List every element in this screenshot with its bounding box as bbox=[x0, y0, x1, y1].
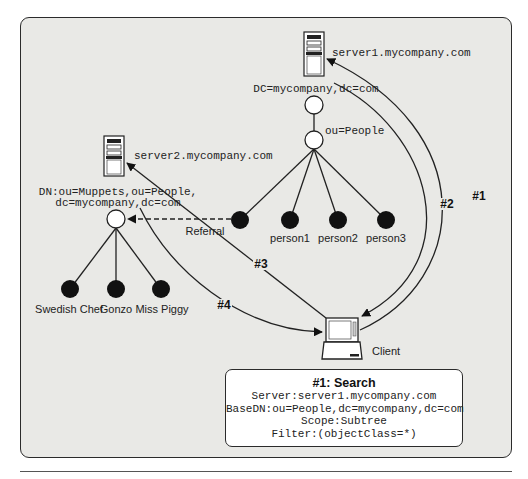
server1-dn-label: DC=mycompany,dc=com bbox=[253, 83, 379, 95]
search-filter: Filter:(objectClass=*) bbox=[226, 428, 462, 441]
swedish-chef-node bbox=[61, 280, 79, 298]
person3-label: person3 bbox=[366, 232, 406, 244]
step1-arrow bbox=[327, 59, 442, 330]
person2-node bbox=[329, 211, 347, 229]
step2-arrow bbox=[334, 83, 427, 316]
ou-people-node bbox=[305, 131, 323, 149]
search-server: Server:server1.mycompany.com bbox=[226, 390, 462, 403]
search-request-box: #1: Search Server:server1.mycompany.com … bbox=[225, 369, 463, 447]
step1-label: #1 bbox=[472, 189, 486, 203]
step4-label: #4 bbox=[217, 298, 231, 312]
caption-divider bbox=[20, 471, 512, 472]
server1-icon bbox=[304, 32, 324, 76]
person2-label: person2 bbox=[318, 232, 358, 244]
client-label: Client bbox=[372, 345, 400, 357]
server2-icon bbox=[104, 136, 124, 176]
step3-label: #3 bbox=[254, 257, 268, 271]
person3-node bbox=[377, 211, 395, 229]
swedish-chef-label: Swedish Chef bbox=[35, 303, 104, 315]
referral-entry-node bbox=[231, 211, 249, 229]
search-title: #1: Search bbox=[226, 376, 462, 390]
client-laptop-icon bbox=[322, 318, 362, 359]
server2-label: server2.mycompany.com bbox=[134, 150, 273, 162]
gonzo-label: Gonzo bbox=[100, 303, 132, 315]
search-base-dn: BaseDN:ou=People,dc=mycompany,dc=com bbox=[226, 403, 462, 416]
step2-label: #2 bbox=[440, 197, 454, 211]
muppets-node bbox=[107, 210, 125, 228]
person1-node bbox=[281, 211, 299, 229]
server2-dn-line2: dc=mycompany,dc=com bbox=[55, 197, 181, 209]
gonzo-node bbox=[107, 280, 125, 298]
miss-piggy-label: Miss Piggy bbox=[135, 303, 189, 315]
search-scope: Scope:Subtree bbox=[226, 415, 462, 428]
ou-people-label: ou=People bbox=[325, 125, 384, 137]
root-node bbox=[305, 96, 323, 114]
server1-label: server1.mycompany.com bbox=[332, 47, 471, 59]
miss-piggy-node bbox=[152, 280, 170, 298]
person1-label: person1 bbox=[270, 232, 310, 244]
